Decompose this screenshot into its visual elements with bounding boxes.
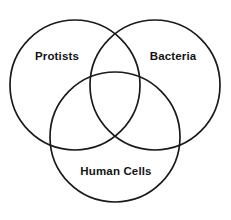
label-bacteria: Bacteria: [150, 50, 197, 62]
label-protists: Protists: [35, 50, 79, 62]
venn-diagram-canvas: Protists Bacteria Human Cells: [0, 0, 231, 220]
label-human-cells: Human Cells: [80, 165, 151, 177]
venn-diagram: Protists Bacteria Human Cells: [0, 0, 231, 220]
